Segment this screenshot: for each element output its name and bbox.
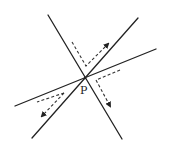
diagram-svg <box>0 0 169 150</box>
intersection-point <box>84 77 86 79</box>
point-label-p: P <box>80 85 87 96</box>
diagram-canvas: P <box>0 0 169 150</box>
dashed-path-upper <box>72 42 108 66</box>
